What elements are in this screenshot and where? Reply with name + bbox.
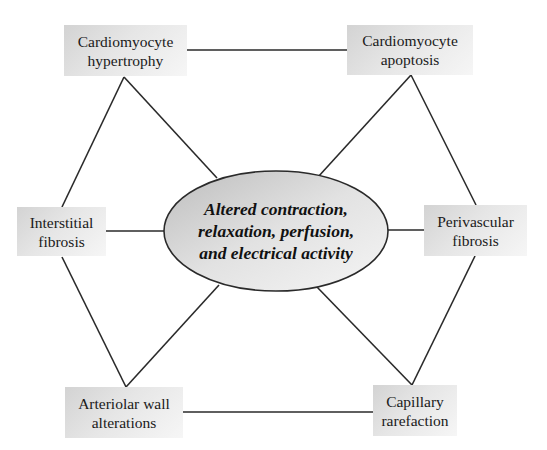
node-label-line: hypertrophy: [78, 51, 174, 70]
node-label-line: fibrosis: [437, 231, 514, 250]
node-perivascular-fibrosis: Perivascular fibrosis: [424, 205, 527, 256]
node-label-line: Capillary: [381, 392, 448, 411]
node-arteriolar-wall-alterations: Arteriolar wall alterations: [65, 387, 183, 438]
node-label-line: fibrosis: [30, 232, 94, 251]
edge-arteriolar-interstitial: [62, 257, 126, 387]
center-line-2: relaxation, perfusion,: [198, 220, 354, 242]
node-cardiomyocyte-hypertrophy: Cardiomyocyte hypertrophy: [64, 25, 187, 76]
node-label-line: Arteriolar wall: [78, 394, 170, 413]
center-concept: Altered contraction, relaxation, perfusi…: [164, 171, 388, 291]
edge-hypertrophy-interstitial: [62, 77, 124, 207]
edge-arteriolar-center: [126, 285, 219, 387]
node-label-line: Cardiomyocyte: [362, 31, 458, 50]
edge-capillary-perivascular: [412, 256, 475, 385]
node-capillary-rarefaction: Capillary rarefaction: [373, 385, 457, 436]
center-line-3: and electrical activity: [198, 242, 354, 264]
node-label-line: Perivascular: [437, 212, 514, 231]
node-label-line: Interstitial: [30, 213, 94, 232]
edge-capillary-center: [316, 286, 412, 385]
node-label-line: alterations: [78, 413, 170, 432]
node-label-line: rarefaction: [381, 411, 448, 430]
node-interstitial-fibrosis: Interstitial fibrosis: [17, 207, 106, 256]
node-cardiomyocyte-apoptosis: Cardiomyocyte apoptosis: [347, 25, 473, 75]
center-line-1: Altered contraction,: [198, 198, 354, 220]
edge-hypertrophy-center: [124, 77, 217, 178]
edge-apoptosis-perivascular: [411, 75, 476, 205]
edge-apoptosis-center: [318, 75, 411, 177]
node-label-line: apoptosis: [362, 50, 458, 69]
node-label-line: Cardiomyocyte: [78, 32, 174, 51]
